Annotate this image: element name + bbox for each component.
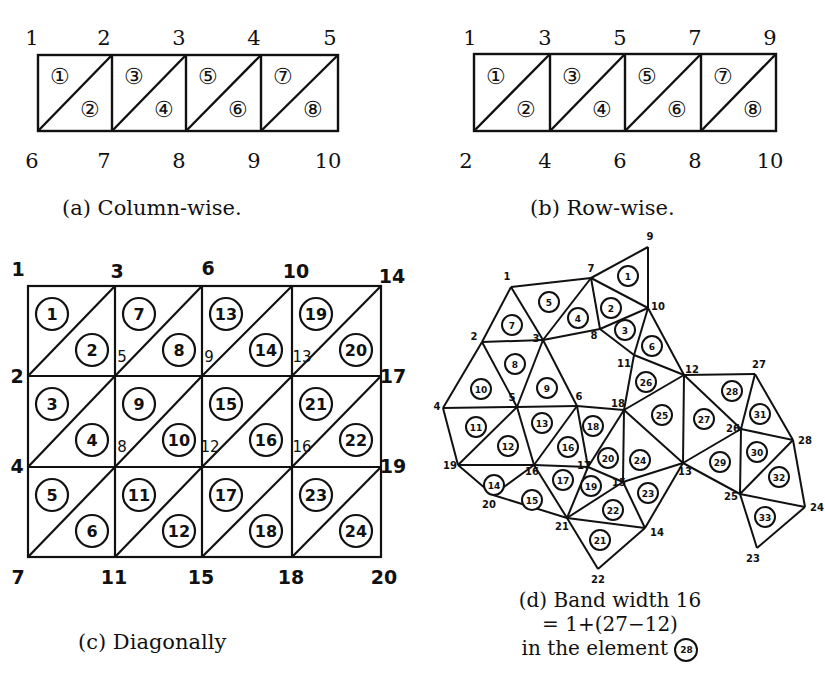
node-label: 2	[459, 149, 472, 173]
node-label: 6	[25, 149, 38, 173]
node-label: 10	[757, 149, 784, 173]
node-label: 26	[726, 423, 740, 434]
node-label: 7	[11, 566, 24, 588]
node-label: 11	[101, 566, 127, 588]
node-label: 1	[11, 258, 24, 280]
element-label: ③	[562, 64, 582, 89]
node-label: 17	[577, 460, 591, 471]
node-label: 9	[247, 149, 260, 173]
element-label: 21	[594, 536, 607, 546]
element-label: 19	[585, 482, 598, 492]
mesh-edge	[741, 429, 793, 440]
mesh-edge	[443, 407, 517, 408]
element-label: 9	[544, 384, 550, 394]
element-label: 7	[509, 321, 515, 331]
element-label: 2	[86, 341, 97, 360]
node-label: 5	[509, 392, 516, 403]
element-label: 1	[46, 305, 57, 324]
mesh-edge	[591, 278, 600, 329]
element-label: 31	[754, 410, 767, 420]
node-label: 7	[588, 263, 595, 274]
element-label: 18	[587, 422, 600, 432]
element-label: ⑥	[667, 97, 687, 122]
mesh-edge	[623, 410, 624, 482]
node-label: 8	[688, 149, 701, 173]
node-label: 25	[724, 491, 738, 502]
mesh-edge	[740, 494, 805, 507]
element-label: 20	[345, 341, 367, 360]
element-label: 24	[634, 456, 647, 466]
element-label: 15	[215, 395, 237, 414]
node-label: 17	[380, 365, 406, 387]
node-label: 3	[533, 333, 540, 344]
element-label: 1	[625, 272, 631, 282]
mesh-edge	[740, 494, 757, 548]
node-label: 1	[504, 271, 511, 282]
node-label: 5	[323, 26, 336, 50]
node-label: 22	[591, 574, 605, 585]
node-label: 16	[292, 438, 311, 456]
node-label: 1	[25, 26, 38, 50]
element-label: 24	[345, 522, 367, 541]
element-label: 16	[562, 443, 575, 453]
mesh-edge	[517, 340, 543, 407]
node-label: 13	[678, 466, 692, 477]
element-label: 22	[607, 506, 620, 516]
element-label: 17	[215, 486, 237, 505]
element-label: 9	[133, 395, 144, 414]
element-label: 20	[602, 454, 615, 464]
node-label: 1	[463, 26, 476, 50]
node-label: 2	[471, 331, 478, 342]
element-label: 21	[305, 395, 327, 414]
element-label: 3	[622, 326, 628, 336]
element-label: ④	[592, 97, 612, 122]
element-label: ⑥	[228, 97, 248, 122]
mesh-edge	[793, 440, 805, 507]
node-label: 9	[763, 26, 776, 50]
node-label: 10	[283, 260, 309, 282]
node-label: 7	[688, 26, 701, 50]
element-label: 28	[726, 387, 739, 397]
element-label: 13	[536, 419, 549, 429]
node-label: 18	[278, 566, 304, 588]
node-label: 24	[810, 502, 824, 513]
element-label: 29	[714, 458, 727, 468]
node-label: 14	[379, 265, 405, 287]
mesh-edge	[567, 518, 645, 528]
node-label: 27	[752, 359, 766, 370]
node-label: 4	[538, 149, 551, 173]
mesh-edge	[511, 278, 591, 287]
node-label: 9	[204, 348, 214, 366]
element-label: 10	[168, 431, 190, 450]
caption-d-line1: (d) Band width 16	[480, 588, 740, 612]
node-label: 18	[611, 398, 625, 409]
node-label: 19	[380, 455, 406, 477]
node-label: 12	[200, 438, 219, 456]
node-label: 4	[434, 401, 441, 412]
caption-d-line3: in the element 28	[480, 636, 740, 662]
element-label: ②	[80, 97, 100, 122]
element-label: 32	[773, 473, 786, 483]
node-label: 14	[650, 527, 664, 538]
node-label: 23	[746, 553, 760, 564]
mesh-edge	[683, 375, 684, 463]
caption-b: (b) Row-wise.	[530, 196, 675, 220]
node-label: 2	[10, 365, 23, 387]
element-label: 11	[470, 423, 483, 433]
element-label: 12	[168, 522, 190, 541]
element-label: 22	[345, 431, 367, 450]
element-label: 4	[86, 431, 97, 450]
node-label: 20	[482, 499, 496, 510]
element-label: ①	[486, 64, 506, 89]
node-label: 3	[538, 26, 551, 50]
node-label: 8	[591, 330, 598, 341]
node-label: 12	[685, 364, 699, 375]
node-label: 7	[97, 149, 110, 173]
element-label: 25	[656, 411, 669, 421]
node-label: 20	[371, 566, 397, 588]
node-label: 10	[651, 301, 665, 312]
node-label: 6	[576, 391, 583, 402]
mesh-edge	[740, 429, 741, 494]
element-label: 30	[751, 448, 764, 458]
node-label: 3	[172, 26, 185, 50]
